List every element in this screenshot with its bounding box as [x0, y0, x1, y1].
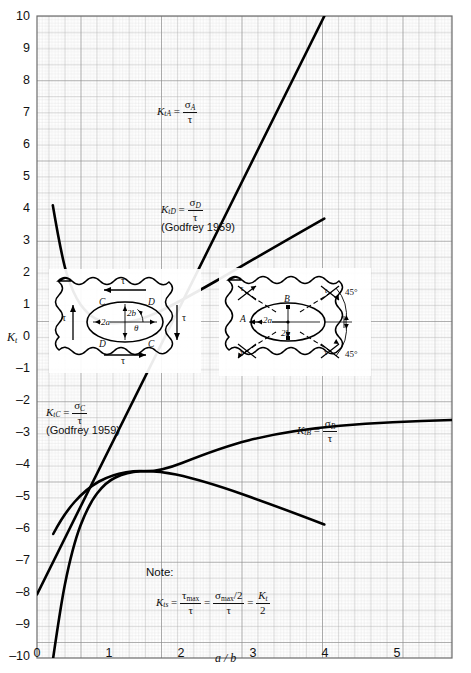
y-tick-10: 10	[0, 9, 30, 23]
note-f1-sub: max	[186, 594, 199, 603]
ktA-numerator: σA	[183, 98, 198, 113]
inset-right-angle-top: 45°	[345, 288, 358, 297]
annotation-ktA: KtA = σA τ	[157, 98, 197, 126]
ktA-denominator: τ	[183, 113, 198, 126]
inset-left-label-C-lower: C	[148, 340, 154, 350]
chart-canvas	[0, 0, 471, 673]
note-f2-tail: /2	[234, 589, 243, 601]
x-axis-label: a / b	[215, 651, 236, 666]
note-fraction-3: Kt 2	[256, 589, 269, 617]
x-tick-3: 3	[241, 646, 265, 660]
note-f2-sub: max	[221, 594, 234, 603]
ktC-equals: =	[63, 406, 69, 418]
inset-right-tau-tl: τ	[240, 284, 244, 293]
y-tick-9: 9	[0, 41, 30, 55]
inset-left-label-2b: 2b	[127, 309, 136, 318]
ktD-fraction: σD τ	[188, 196, 203, 224]
y-tick-neg2: –2	[0, 393, 30, 407]
y-axis-label-K: K	[7, 330, 15, 344]
y-axis-label: Kt	[7, 330, 17, 345]
y-tick-5: 5	[0, 169, 30, 183]
x-tick-0: 0	[25, 646, 49, 660]
inset-left-label-D-lower: D	[99, 340, 106, 350]
note-f3-den: 2	[256, 604, 269, 617]
y-tick-4: 4	[0, 201, 30, 215]
note-f3-sub: t	[265, 594, 267, 603]
note-f2-den: τ	[213, 604, 244, 617]
note-f1-num: τmax	[180, 589, 201, 604]
note-equals-3: =	[247, 596, 253, 608]
inset-left-label-2a: 2a	[101, 318, 110, 327]
y-tick-neg7: –7	[0, 553, 30, 567]
inset-right-tau-bl: τ	[240, 348, 244, 357]
note-f2-num: σmax/2	[213, 589, 244, 604]
y-tick-neg5: –5	[0, 489, 30, 503]
x-tick-5: 5	[385, 646, 409, 660]
annotation-ktD-source: (Godfrey 1959)	[161, 221, 235, 233]
inset-left-label-D-upper: D	[148, 298, 155, 308]
note-fraction-2: σmax/2 τ	[213, 589, 244, 617]
y-tick-neg6: –6	[0, 521, 30, 535]
note-equals-1: =	[171, 596, 177, 608]
inset-left-tau-left: τ	[62, 313, 66, 324]
inset-left-tau-top: τ	[121, 276, 125, 287]
y-tick-1: 1	[0, 297, 30, 311]
note-equation: Kts = τmax τ = σmax/2 τ = Kt 2	[156, 589, 270, 617]
y-tick-2: 2	[0, 265, 30, 279]
note-f3-num: Kt	[256, 589, 269, 604]
inset-right-label-2a: 2a	[263, 316, 272, 325]
note-equals-2: =	[204, 596, 210, 608]
inset-right-tau-br: τ	[324, 348, 328, 357]
inset-right-tau-tr: τ	[324, 286, 328, 295]
stress-concentration-chart: 10 9 8 7 6 5 4 3 2 1 0 –1 –2 –3 –4 –5 –6…	[0, 0, 471, 673]
y-tick-neg8: –8	[0, 585, 30, 599]
ktD-equals: =	[179, 203, 185, 215]
y-tick-neg9: –9	[0, 617, 30, 631]
ktA-num-sub: A	[191, 103, 196, 112]
inset-right-angle-bottom: 45°	[345, 350, 358, 359]
ktD-numerator: σD	[188, 196, 203, 211]
ktB-fraction: σB τ	[323, 417, 338, 445]
inset-left-tau-bottom: τ	[121, 356, 125, 367]
inset-left-label-theta: θ	[134, 324, 138, 333]
y-tick-6: 6	[0, 137, 30, 151]
ktD-sub: tD	[168, 207, 175, 216]
ktA-equals: =	[174, 105, 180, 117]
inset-left-tau-right: τ	[182, 313, 186, 324]
ktA-sub: tA	[164, 109, 171, 118]
inset-right-label-2b: 2b	[281, 329, 290, 338]
ktA-fraction: σA τ	[183, 98, 198, 126]
annotation-ktB: KtB = σB τ	[297, 417, 337, 445]
inset-left-label-C-upper: C	[99, 298, 105, 308]
x-tick-2: 2	[169, 646, 193, 660]
x-tick-1: 1	[97, 646, 121, 660]
annotation-ktC-source: (Godfrey 1959)	[46, 424, 120, 436]
ktC-fraction: σC τ	[72, 399, 87, 427]
note-fraction-1: τmax τ	[180, 589, 201, 617]
ktB-equals: =	[314, 424, 320, 436]
y-axis-label-sub: t	[15, 336, 17, 345]
y-tick-neg1: –1	[0, 361, 30, 375]
ktB-num-sub: B	[331, 422, 336, 431]
inset-right-label-A: A	[240, 315, 246, 325]
y-tick-neg3: –3	[0, 425, 30, 439]
ktC-sub: tC	[53, 410, 60, 419]
note-header: Note:	[146, 566, 174, 578]
y-tick-7: 7	[0, 105, 30, 119]
inset-right-label-B: B	[284, 295, 290, 305]
y-tick-3: 3	[0, 233, 30, 247]
note-f1-den: τ	[180, 604, 201, 617]
ktC-num-sub: C	[80, 404, 85, 413]
y-tick-8: 8	[0, 73, 30, 87]
y-tick-neg4: –4	[0, 457, 30, 471]
ktC-numerator: σC	[72, 399, 87, 414]
ktB-sub: tB	[304, 428, 311, 437]
x-tick-4: 4	[313, 646, 337, 660]
ktB-numerator: σB	[323, 417, 338, 432]
ktB-denominator: τ	[323, 432, 338, 445]
annotation-ktD: KtD = σD τ	[161, 196, 203, 224]
ktD-num-sub: D	[195, 201, 200, 210]
annotation-ktC: KtC = σC τ	[46, 399, 87, 427]
note-kts-sub: ts	[163, 600, 168, 609]
